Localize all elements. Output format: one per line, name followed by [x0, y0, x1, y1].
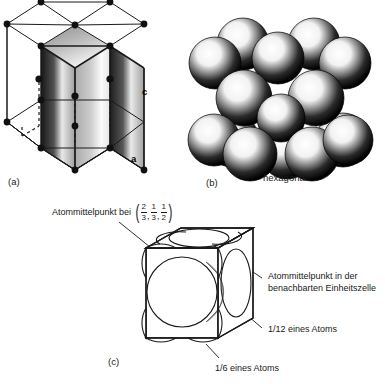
label-atom-neighbor-cell: Atommittelpunkt in der benachbarten Einh…: [268, 271, 376, 294]
label-atom-center-text: Atommittelpunkt bei: [52, 207, 131, 217]
panel-b-sphere-packing: [188, 18, 373, 181]
coordinate-fraction-triple: ( 2 3 , 1 3 , 1 2 ): [134, 203, 174, 222]
axis-label-c: c: [142, 86, 147, 97]
leader-line-sixth: [206, 344, 219, 358]
panel-b-caption: hexagonal: [263, 172, 307, 183]
label-one-twelfth-atom: 1/12 eines Atoms: [268, 324, 337, 335]
panel-a-tag: (a): [8, 176, 20, 187]
fraction-3: 1 2: [161, 203, 167, 222]
panel-a-hexagonal-prism: [4, 0, 148, 173]
paren-open: (: [135, 204, 139, 221]
paren-close: ): [169, 204, 173, 221]
fraction-separator-2: ,: [157, 211, 160, 222]
fraction-separator-1: ,: [147, 211, 150, 222]
axis-label-a: a: [131, 153, 136, 164]
label-one-sixth-atom: 1/6 eines Atoms: [215, 363, 279, 374]
panel-c-tag: (c): [108, 356, 119, 367]
label-atom-center-position: Atommittelpunkt bei ( 2 3 , 1 3 , 1 2 ): [52, 203, 174, 222]
panel-b-tag: (b): [206, 177, 218, 188]
panel-c-unit-cell: [119, 222, 276, 358]
